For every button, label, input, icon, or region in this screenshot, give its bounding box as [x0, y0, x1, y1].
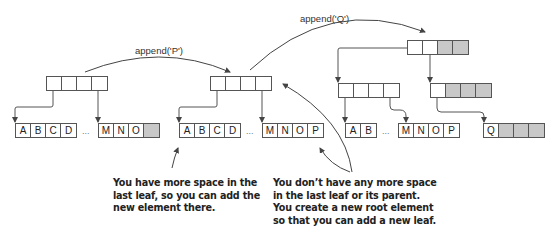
node-slot	[77, 77, 92, 90]
leaf-cell: B	[31, 124, 46, 137]
leaf-cell: C	[46, 124, 61, 137]
leaf-cell: O	[293, 124, 308, 137]
empty-leaf-slot	[514, 124, 529, 137]
empty-leaf-slot	[499, 124, 514, 137]
state2-leaf-mnop: M N O P	[262, 123, 324, 138]
append-p-label: append('P')	[135, 45, 183, 56]
state3-leaf-q: Q	[483, 123, 545, 138]
leaf-cell: A	[16, 124, 31, 137]
node-slot	[384, 84, 399, 97]
node-slot	[431, 84, 446, 97]
state2-leaf-abcd: A B C D	[179, 123, 241, 138]
empty-leaf-slot	[529, 124, 544, 137]
ellipsis: ...	[246, 126, 254, 136]
node-slot	[256, 77, 271, 90]
node-slot	[408, 41, 423, 54]
empty-node-slot	[461, 84, 476, 97]
state1-root-node	[46, 76, 108, 91]
ellipsis: ...	[382, 126, 390, 136]
state2-root-node	[210, 76, 272, 91]
annotation-new-root: You don’t have any more space in the las…	[273, 177, 437, 227]
leaf-cell: N	[114, 124, 129, 137]
leaf-cell: O	[429, 124, 444, 137]
leaf-cell: B	[195, 124, 210, 137]
state3-right-internal-node	[430, 83, 492, 98]
leaf-cell: A	[180, 124, 195, 137]
node-slot	[62, 77, 77, 90]
node-slot	[423, 41, 438, 54]
node-slot	[369, 84, 384, 97]
empty-leaf-slot	[144, 124, 159, 137]
leaf-cell: C	[210, 124, 225, 137]
leaf-cell: Q	[484, 124, 499, 137]
leaf-cell: N	[278, 124, 293, 137]
empty-node-slot	[446, 84, 461, 97]
node-slot	[92, 77, 107, 90]
leaf-cell: M	[399, 124, 414, 137]
empty-node-slot	[476, 84, 491, 97]
leaf-cell: B	[361, 124, 376, 137]
leaf-cell: M	[263, 124, 278, 137]
node-slot	[211, 77, 226, 90]
leaf-cell: D	[225, 124, 240, 137]
node-slot	[226, 77, 241, 90]
state3-leaf-ab: A B	[345, 123, 377, 138]
node-slot	[354, 84, 369, 97]
leaf-cell: M	[99, 124, 114, 137]
leaf-cell: P	[444, 124, 459, 137]
leaf-cell: D	[61, 124, 76, 137]
state3-new-root-node	[407, 40, 469, 55]
empty-node-slot	[453, 41, 468, 54]
leaf-cell: O	[129, 124, 144, 137]
state1-leaf-abcd: A B C D	[15, 123, 77, 138]
state3-left-internal-node	[338, 83, 400, 98]
ellipsis: ...	[82, 126, 90, 136]
node-slot	[241, 77, 256, 90]
node-slot	[47, 77, 62, 90]
leaf-cell: A	[346, 124, 361, 137]
annotation-more-space: You have more space in the last leaf, so…	[113, 177, 260, 215]
node-slot	[339, 84, 354, 97]
state3-leaf-mnop: M N O P	[398, 123, 460, 138]
state1-leaf-mno: M N O	[98, 123, 160, 138]
leaf-cell: N	[414, 124, 429, 137]
append-q-label: append('Q')	[300, 13, 349, 24]
empty-node-slot	[438, 41, 453, 54]
leaf-cell: P	[308, 124, 323, 137]
